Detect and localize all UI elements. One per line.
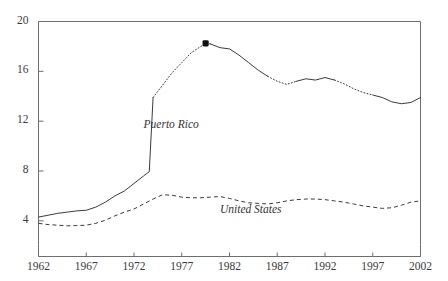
y-axis-tick-label: 12: [0, 113, 29, 125]
series-line-puerto-rico: [268, 76, 297, 84]
series-line-puerto-rico: [373, 95, 421, 104]
line-chart-plot: [0, 0, 448, 281]
series-line-puerto-rico: [39, 97, 154, 217]
series-line-puerto-rico: [210, 44, 267, 76]
y-axis-tick-label: 20: [0, 14, 29, 26]
y-axis-tick-label: 4: [0, 213, 29, 225]
data-point-marker: [203, 40, 209, 46]
series-annotation-label: United States: [220, 203, 282, 215]
chart-container: 4812162019621967197219771982198719921997…: [0, 0, 448, 281]
y-axis-tick-label: 16: [0, 63, 29, 75]
y-axis-tick-label: 8: [0, 163, 29, 175]
series-line-puerto-rico: [335, 80, 373, 95]
series-line-puerto-rico: [153, 43, 210, 97]
x-axis-tick-label: 2002: [391, 260, 448, 272]
series-annotation-label: Puerto Rico: [144, 118, 199, 130]
series-line-puerto-rico: [296, 78, 334, 82]
